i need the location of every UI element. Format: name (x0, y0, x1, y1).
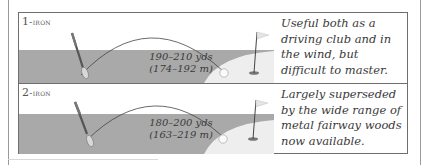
distance-yards: 190–210 yds (141, 51, 221, 63)
distance-label: 180–200 yds (163–219 m) (141, 117, 221, 141)
club-name: -iron (29, 88, 51, 98)
bottom-rule (8, 159, 158, 160)
club-description: Largely superseded by the wide range of … (281, 87, 405, 149)
club-name: -iron (29, 17, 51, 27)
distance-meters: (163–219 m) (141, 129, 221, 141)
club-label: 1-iron (22, 15, 51, 28)
club-row-1-iron: 1-iron 190–210 yds (174–192 m) Useful bo… (19, 13, 407, 84)
shot-illustration: 1-iron 190–210 yds (174–192 m) (19, 13, 274, 83)
shot-illustration: 2-iron 180–200 yds (163–219 m) (19, 84, 274, 154)
club-description: Useful both as a driving club and in the… (281, 16, 405, 78)
club-label: 2-iron (22, 86, 51, 99)
outer-border-left (8, 0, 9, 165)
distance-label: 190–210 yds (174–192 m) (141, 51, 221, 75)
club-row-2-iron: 2-iron 180–200 yds (163–219 m) Largely s… (19, 84, 407, 154)
distance-meters: (174–192 m) (141, 63, 221, 75)
distance-yards: 180–200 yds (141, 117, 221, 129)
outer-border-right (420, 0, 421, 165)
club-comparison-panel: 1-iron 190–210 yds (174–192 m) Useful bo… (18, 12, 408, 154)
